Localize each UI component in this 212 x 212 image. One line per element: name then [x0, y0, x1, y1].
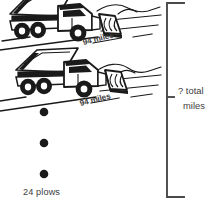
total-miles-line-1: ? total [178, 84, 205, 99]
total-miles-line-2: miles [178, 99, 205, 114]
total-miles-caption: ? total miles [178, 84, 205, 113]
snow-plow-truck-2 [16, 48, 128, 98]
ellipsis-dot [40, 170, 49, 179]
plow-count-caption: 24 plows [23, 188, 60, 198]
hill-lines-upper [97, 5, 160, 14]
scene-upper [0, 0, 161, 50]
vertical-ellipsis [40, 108, 49, 179]
diagram-canvas: 94 miles 94 miles 24 plows ? total miles [0, 0, 212, 212]
ellipsis-dot [40, 139, 49, 148]
ellipsis-dot [40, 108, 49, 117]
